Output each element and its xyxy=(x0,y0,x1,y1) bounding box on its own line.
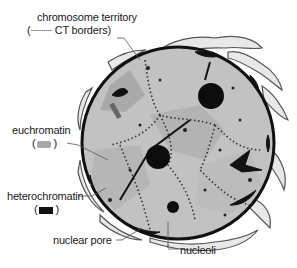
paren-close: ) xyxy=(53,137,56,149)
nucleus-diagram: chromosome territory (---------- CT bord… xyxy=(0,0,297,268)
label-heterochromatin: heterochromatin xyxy=(7,190,84,202)
paren-open: ( xyxy=(32,137,35,149)
heterochromatin-legend: () xyxy=(34,203,59,215)
heterochromatin-swatch xyxy=(39,207,53,214)
label-nucleoli: nucleoli xyxy=(180,244,216,256)
euchromatin-legend: () xyxy=(32,137,57,149)
paren-open: ( xyxy=(34,203,37,215)
euchromatin-swatch xyxy=(37,141,51,148)
ct-borders-text: CT borders) xyxy=(55,24,111,36)
label-chromosome-territory: chromosome territory xyxy=(37,11,137,23)
label-euchromatin: euchromatin xyxy=(12,124,70,136)
label-ct-borders: (---------- CT borders) xyxy=(27,24,111,36)
ct-border-dash-legend: ---------- xyxy=(30,26,51,33)
paren-close: ) xyxy=(55,203,58,215)
label-nuclear-pore: nuclear pore xyxy=(53,234,112,246)
